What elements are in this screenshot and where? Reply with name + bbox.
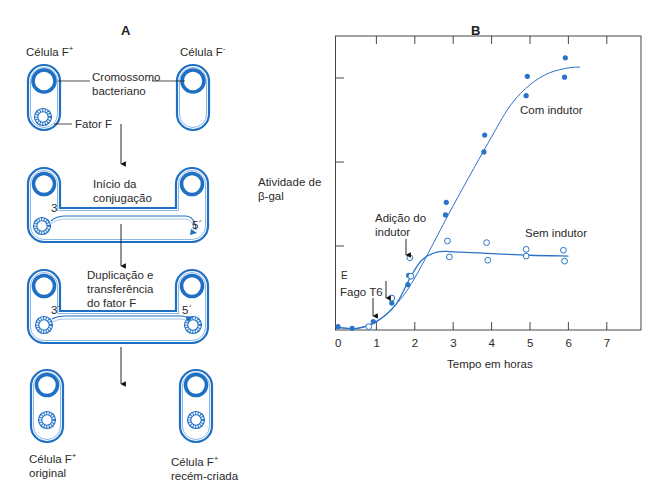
inductor-annotation-line1: Adição do xyxy=(375,211,426,225)
data-point-with-inductor xyxy=(482,133,487,138)
data-point-without-inductor xyxy=(408,273,414,279)
data-point-without-inductor xyxy=(445,238,451,244)
series-with-inductor-label: Com indutor xyxy=(520,103,583,117)
x-tick-label: 2 xyxy=(412,336,418,350)
x-tick-label: 4 xyxy=(489,336,495,350)
data-point-without-inductor xyxy=(523,246,529,252)
data-point-with-inductor xyxy=(371,319,376,324)
data-point-with-inductor xyxy=(405,282,410,287)
data-point-without-inductor xyxy=(485,257,491,263)
data-point-with-inductor xyxy=(444,200,449,205)
phage-annotation: Fago T6 xyxy=(340,285,383,299)
data-point-without-inductor xyxy=(389,295,395,301)
e-annotation: E xyxy=(341,269,348,283)
data-point-without-inductor xyxy=(366,324,372,330)
series-without-inductor-label: Sem indutor xyxy=(525,226,587,240)
data-point-without-inductor xyxy=(407,255,413,261)
data-point-with-inductor xyxy=(563,55,568,60)
x-tick-label: 3 xyxy=(450,336,456,350)
x-tick-label: 6 xyxy=(565,336,571,350)
data-point-without-inductor xyxy=(561,247,567,253)
data-point-without-inductor xyxy=(446,254,452,260)
data-point-with-inductor xyxy=(335,324,340,329)
data-point-with-inductor xyxy=(481,149,486,154)
x-tick-label: 7 xyxy=(604,336,610,350)
x-axis-label: Tempo em horas xyxy=(447,357,533,371)
inductor-annotation: Adição do indutor xyxy=(375,211,426,239)
data-point-without-inductor xyxy=(484,240,490,246)
inductor-annotation-line2: indutor xyxy=(375,225,426,239)
data-point-with-inductor xyxy=(350,326,355,331)
data-point-with-inductor xyxy=(524,93,529,98)
x-tick-label: 5 xyxy=(527,336,533,350)
x-tick-label: 1 xyxy=(373,336,379,350)
x-tick-label: 0 xyxy=(335,336,341,350)
beta-gal-chart xyxy=(0,0,665,493)
data-point-without-inductor xyxy=(562,258,568,264)
data-point-with-inductor xyxy=(525,74,530,79)
data-point-with-inductor xyxy=(562,75,567,80)
data-point-with-inductor xyxy=(443,212,448,217)
data-point-without-inductor xyxy=(523,253,529,259)
